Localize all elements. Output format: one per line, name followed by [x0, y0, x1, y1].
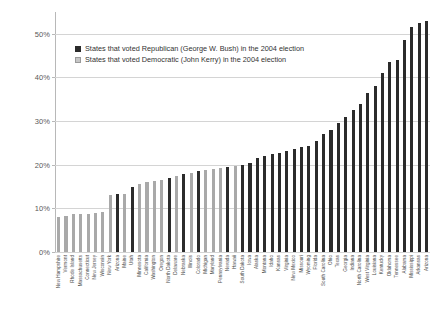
x-tick-label: Rhode Island: [71, 255, 76, 283]
bar: [168, 178, 171, 252]
legend-swatch-democratic-icon: [75, 57, 81, 63]
label-slot: California: [143, 254, 150, 316]
x-tick-label: Utah: [130, 255, 135, 265]
label-slot: Kansas: [276, 254, 283, 316]
bar-slot: [305, 12, 312, 252]
bar: [344, 117, 347, 252]
gridline: 0%: [55, 252, 430, 253]
label-slot: Alaska: [254, 254, 261, 316]
label-slot: Maryland: [210, 254, 217, 316]
bar-slot: [327, 12, 334, 252]
label-slot: North Carolina: [357, 254, 364, 316]
bar: [366, 93, 369, 252]
bar-slot: [371, 12, 378, 252]
label-slot: Colorado: [195, 254, 202, 316]
bar: [109, 195, 112, 252]
bar-slot: [342, 12, 349, 252]
x-tick-label: Connecticut: [86, 255, 91, 280]
bar: [131, 187, 134, 252]
x-tick-label: Minnesota: [137, 255, 142, 277]
x-tick-label: Virginia: [285, 255, 290, 271]
legend-label-republican: States that voted Republican (George W. …: [85, 44, 304, 53]
bar: [116, 194, 119, 252]
bar: [57, 217, 60, 252]
label-slot: Indiana: [349, 254, 356, 316]
x-tick-label: New Mexico: [292, 255, 297, 281]
legend-swatch-republican-icon: [75, 46, 81, 52]
x-tick-label: Indiana: [351, 255, 356, 270]
bar: [197, 171, 200, 252]
bar: [388, 62, 391, 252]
bar: [212, 169, 215, 252]
label-slot: Kentucky: [379, 254, 386, 316]
label-slot: Montana: [261, 254, 268, 316]
x-tick-label: Montana: [262, 255, 267, 273]
x-tick-label: North Dakota: [167, 255, 172, 283]
bar: [256, 158, 259, 252]
bar-slot: [379, 12, 386, 252]
label-slot: North Dakota: [165, 254, 172, 316]
label-slot: New Jersey: [92, 254, 99, 316]
bar: [410, 27, 413, 252]
label-slot: Massachusetts: [77, 254, 84, 316]
bar-slot: [408, 12, 415, 252]
x-tick-label: Vermont: [64, 255, 69, 272]
bar: [204, 170, 207, 252]
label-slot: Maine: [121, 254, 128, 316]
bar-slot: [335, 12, 342, 252]
bar: [352, 110, 355, 252]
legend-item-republican: States that voted Republican (George W. …: [75, 44, 304, 53]
x-tick-label: Missouri: [299, 255, 304, 273]
bar: [278, 153, 281, 252]
label-slot: Wisconsin: [99, 254, 106, 316]
x-tick-label: Louisiana: [373, 255, 378, 275]
label-slot: Arizona: [423, 254, 430, 316]
label-slot: Louisiana: [371, 254, 378, 316]
bar-slot: [349, 12, 356, 252]
legend-label-democratic: States that voted Democratic (John Kerry…: [85, 55, 286, 64]
y-tick-label: 20%: [35, 160, 50, 169]
label-slot: New Mexico: [291, 254, 298, 316]
bar: [285, 151, 288, 252]
x-tick-label: Oregon: [159, 255, 164, 271]
y-tick-label: 30%: [35, 117, 50, 126]
x-tick-label: Wisconsin: [101, 255, 106, 276]
y-tick-label: 0%: [39, 248, 50, 257]
bar-slot: [320, 12, 327, 252]
label-slot: Arkansas: [416, 254, 423, 316]
bar-slot: [416, 12, 423, 252]
label-slot: Washington: [151, 254, 158, 316]
label-slot: Rhode Island: [70, 254, 77, 316]
label-slot: South Dakota: [239, 254, 246, 316]
bar: [138, 184, 141, 252]
label-slot: Illinois: [187, 254, 194, 316]
label-slot: Texas: [335, 254, 342, 316]
x-tick-label: Mississippi: [410, 255, 415, 278]
bar: [79, 214, 82, 252]
label-slot: Wyoming: [305, 254, 312, 316]
y-tick-label: 40%: [35, 73, 50, 82]
label-slot: Connecticut: [84, 254, 91, 316]
bar: [160, 180, 163, 252]
x-tick-label: Iowa: [248, 255, 253, 265]
x-tick-label: Alabama: [402, 255, 407, 273]
bar: [396, 60, 399, 252]
x-tick-label: California: [145, 255, 150, 275]
bar: [94, 213, 97, 252]
bar: [72, 214, 75, 252]
bar: [248, 163, 251, 252]
x-tick-label: Colorado: [196, 255, 201, 274]
x-tick-label: Hawaii: [233, 255, 238, 269]
x-tick-label: Washington: [152, 255, 157, 280]
bar: [263, 156, 266, 252]
x-tick-label: Michigan: [204, 255, 209, 274]
x-tick-label: Nevada: [226, 255, 231, 271]
label-slot: Missouri: [298, 254, 305, 316]
bar: [337, 123, 340, 252]
label-slot: Alabama: [401, 254, 408, 316]
bar: [374, 86, 377, 252]
label-slot: Oklahoma: [386, 254, 393, 316]
bar: [329, 130, 332, 252]
label-slot: Oregon: [158, 254, 165, 316]
bar: [425, 21, 428, 252]
